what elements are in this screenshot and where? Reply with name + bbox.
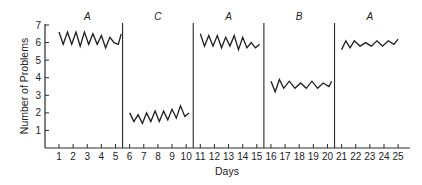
x-tick-label: 7: [141, 151, 147, 162]
y-tick-label: 7: [35, 20, 41, 31]
x-tick-label: 23: [364, 151, 376, 162]
x-tick-label: 1: [56, 151, 62, 162]
x-tick-label: 5: [113, 151, 119, 162]
x-tick-label: 8: [155, 151, 161, 162]
series-line: [271, 80, 332, 92]
x-tick-label: 20: [322, 151, 334, 162]
y-axis-title: Number of Problems: [18, 38, 30, 134]
y-tick-label: 2: [35, 107, 41, 118]
x-tick-label: 13: [223, 151, 235, 162]
phase-label: A: [224, 11, 232, 22]
y-tick-label: 5: [35, 55, 41, 66]
phase-label: B: [296, 11, 303, 22]
series-line: [200, 34, 259, 50]
x-tick-label: 22: [350, 151, 362, 162]
x-tick-label: 17: [280, 151, 292, 162]
x-tick-label: 11: [195, 151, 206, 162]
x-tick-label: 15: [251, 151, 263, 162]
chart-canvas: 1234567123456789101112131415161718192021…: [0, 0, 422, 185]
x-tick-label: 9: [169, 151, 175, 162]
y-tick-label: 1: [35, 125, 41, 136]
x-tick-label: 2: [70, 151, 76, 162]
x-tick-label: 16: [265, 151, 277, 162]
phase-labels: ACABA: [83, 11, 374, 22]
x-tick-label: 3: [84, 151, 90, 162]
y-tick-label: 6: [35, 37, 41, 48]
x-tick-label: 4: [99, 151, 105, 162]
phase-label: A: [83, 11, 91, 22]
y-tick-label: 3: [35, 90, 41, 101]
x-tick-label: 19: [308, 151, 320, 162]
series-line: [342, 39, 399, 50]
reversal-design-line-chart: 1234567123456789101112131415161718192021…: [0, 0, 422, 185]
y-tick-label: 4: [35, 72, 41, 83]
data-series: [59, 32, 398, 123]
x-tick-label: 10: [181, 151, 193, 162]
x-tick-label: 12: [209, 151, 221, 162]
phase-label: C: [154, 11, 162, 22]
x-tick-label: 6: [127, 151, 133, 162]
series-line: [130, 106, 189, 124]
x-tick-label: 14: [237, 151, 249, 162]
phase-label: A: [366, 11, 374, 22]
x-tick-label: 25: [393, 151, 405, 162]
x-tick-label: 21: [336, 151, 348, 162]
x-tick-label: 18: [294, 151, 306, 162]
x-tick-label: 24: [378, 151, 390, 162]
series-line: [59, 32, 121, 48]
x-axis-title: Days: [215, 165, 239, 177]
